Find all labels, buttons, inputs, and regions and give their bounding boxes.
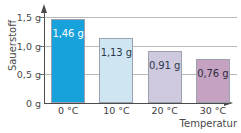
y-tick-label: 0 g xyxy=(8,98,41,109)
y-tick-mark xyxy=(40,74,45,75)
y-tick-label: 1,5 g xyxy=(8,11,41,22)
y-tick-mark xyxy=(40,17,45,18)
x-tick-label: 30 °C xyxy=(200,105,227,116)
x-axis-title: Temperatur xyxy=(180,118,237,129)
x-tick-label: 0 °C xyxy=(58,105,78,116)
bar: 0,91 g xyxy=(148,51,182,103)
x-tick-label: 10 °C xyxy=(103,105,130,116)
bar-value-label: 0,91 g xyxy=(149,61,180,71)
x-tick-label: 20 °C xyxy=(151,105,178,116)
bar-chart: Sauerstoff 0 g 0,5 g 1,0 g 1,5 g 1,46 g1… xyxy=(0,0,241,133)
bar: 1,46 g xyxy=(51,19,85,103)
plot-area: 1,46 g1,13 g0,91 g0,76 g xyxy=(44,10,237,103)
y-tick-label: 1,0 g xyxy=(8,40,41,51)
y-tick-mark xyxy=(40,46,45,47)
y-tick-label: 0,5 g xyxy=(8,69,41,80)
bar-value-label: 0,76 g xyxy=(197,69,228,79)
bar-value-label: 1,46 g xyxy=(53,29,84,39)
bar: 0,76 g xyxy=(196,59,230,103)
bar: 1,13 g xyxy=(99,38,133,103)
bar-value-label: 1,13 g xyxy=(101,48,132,58)
gridline xyxy=(44,17,237,18)
y-axis-tick-labels: 0 g 0,5 g 1,0 g 1,5 g xyxy=(8,0,41,133)
